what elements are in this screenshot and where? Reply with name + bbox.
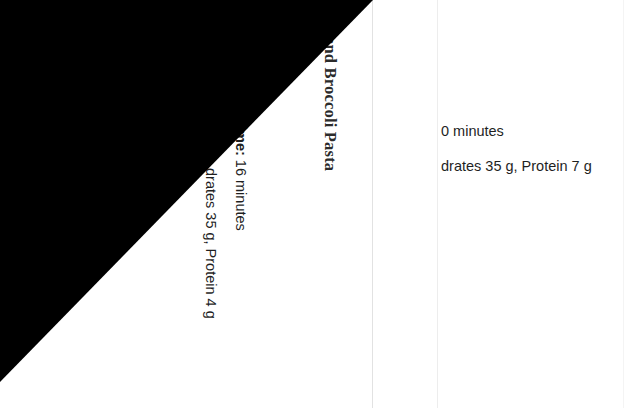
- document-viewer: and Broccoli Pasta ime: 16 minutes drate…: [0, 0, 624, 408]
- document-page-right: 0 minutes drates 35 g, Protein 7 g: [437, 0, 624, 408]
- cook-time-line: ime: 16 minutes: [233, 126, 249, 231]
- nutrition-line: drates 35 g, Protein 4 g: [203, 168, 219, 319]
- right-page-line-1: 0 minutes: [441, 123, 504, 139]
- cook-time-value: 16 minutes: [233, 156, 249, 231]
- recipe-title: and Broccoli Pasta: [320, 36, 340, 171]
- right-page-line-2: drates 35 g, Protein 7 g: [441, 158, 592, 174]
